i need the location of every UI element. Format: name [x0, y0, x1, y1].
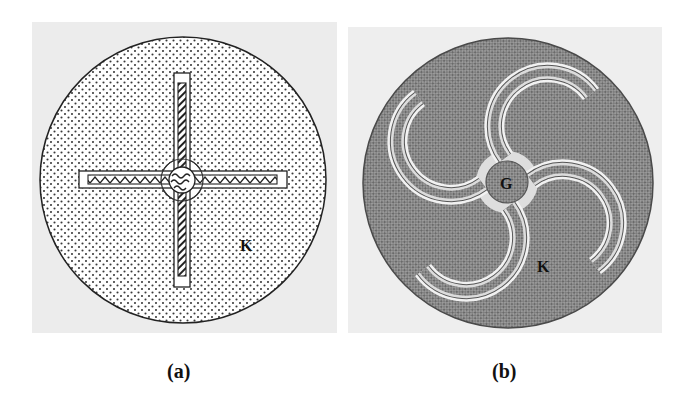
caption-b: (b) — [492, 360, 516, 383]
label-k-b: K — [537, 258, 550, 275]
panel-b: G K — [348, 27, 662, 333]
panel-a: K — [32, 22, 337, 333]
figure: K G K — [0, 0, 687, 401]
label-k-a: K — [240, 237, 253, 254]
label-g: G — [500, 175, 513, 192]
caption-a: (a) — [167, 360, 190, 383]
